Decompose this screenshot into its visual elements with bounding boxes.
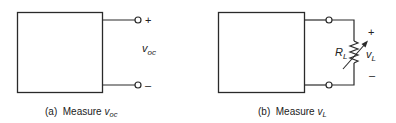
network-box-b bbox=[219, 13, 305, 93]
minus-sign-a: – bbox=[145, 79, 152, 91]
plus-sign-a: + bbox=[145, 14, 151, 26]
caption-b: (b) Measure vL bbox=[258, 106, 327, 119]
voltage-label-a: voc bbox=[142, 42, 156, 57]
bottom-terminal-a bbox=[135, 82, 141, 88]
diagram-b-loaded: RL vL + – (b) Measure vL bbox=[219, 13, 377, 120]
voltage-label-b: vL bbox=[366, 48, 376, 63]
plus-sign-b: + bbox=[368, 26, 374, 38]
bottom-terminal-b bbox=[326, 82, 332, 88]
diagram-a-open-circuit: + – voc (a) Measure voc bbox=[18, 13, 156, 120]
network-box-a bbox=[18, 13, 103, 93]
caption-a: (a) Measure voc bbox=[45, 106, 118, 119]
minus-sign-b: – bbox=[369, 69, 376, 81]
top-terminal-a bbox=[135, 17, 141, 23]
top-terminal-b bbox=[326, 17, 332, 23]
circuit-diagrams: + – voc (a) Measure voc RL vL + – (b) Me… bbox=[0, 0, 396, 123]
top-wire-b-right bbox=[332, 20, 354, 41]
bottom-wire-b-right bbox=[332, 63, 354, 85]
resistor-label-b: RL bbox=[335, 46, 347, 61]
